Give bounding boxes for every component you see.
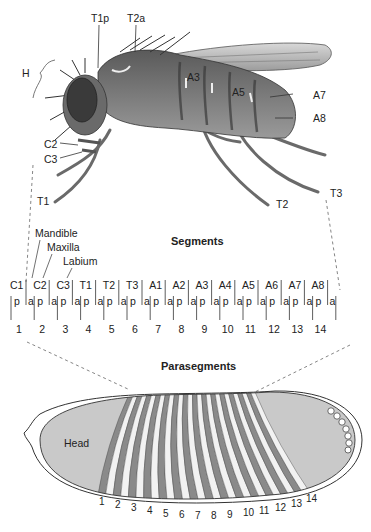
parasegment-stripe-number: 5: [163, 508, 169, 519]
parasegment-number: 6: [132, 323, 138, 335]
parasegment-stripe-number: 6: [179, 509, 185, 520]
compartment-anterior: a: [167, 295, 173, 307]
fly-eye: [67, 78, 97, 122]
label-T1: T1: [37, 195, 49, 207]
label-T2: T2: [276, 198, 288, 210]
parasegment-number: 2: [39, 323, 45, 335]
parasegment-stripe-number: 7: [195, 510, 201, 521]
segment-label: T1: [80, 279, 92, 291]
parasegment-number: 4: [86, 323, 92, 335]
compartment-anterior: a: [330, 295, 336, 307]
compartment-posterior: p: [176, 295, 182, 307]
parasegment-stripe-number: 10: [243, 507, 255, 518]
segments-title: Segments: [171, 235, 224, 247]
compartment-anterior: a: [214, 295, 220, 307]
segment-label: C2: [33, 279, 47, 291]
parasegment-number: 3: [62, 323, 68, 335]
projection-lines: [26, 165, 350, 392]
compartment-anterior: a: [98, 295, 104, 307]
segment-label: A8: [312, 279, 325, 291]
compartment-anterior: a: [190, 295, 196, 307]
head-label: Head: [64, 437, 89, 449]
parasegment-number: 8: [178, 323, 184, 335]
segment-label: A6: [265, 279, 278, 291]
parasegment-number: 7: [155, 323, 161, 335]
parasegment-stripe-number: 8: [211, 510, 217, 521]
compartment-anterior: a: [237, 295, 243, 307]
compartment-anterior: a: [121, 295, 127, 307]
parasegment-number: 12: [268, 323, 280, 335]
compartment-anterior: a: [260, 295, 266, 307]
parasegment-stripe-number: 14: [306, 493, 318, 504]
compartment-posterior: p: [153, 295, 159, 307]
parasegment-number: 13: [291, 323, 303, 335]
parasegment-stripe-number: 11: [259, 505, 270, 516]
compartment-posterior: p: [292, 295, 298, 307]
label-A5: A5: [232, 86, 245, 98]
compartment-anterior: a: [306, 295, 312, 307]
parasegment-stripe-number: 9: [227, 509, 233, 520]
compartment-posterior: p: [223, 295, 229, 307]
parasegment-number: 11: [245, 323, 256, 335]
parasegment-number: 10: [222, 323, 234, 335]
segment-label: T3: [126, 279, 138, 291]
parasegments-title: Parasegments: [161, 360, 236, 372]
mouthpart-labels: Mandible Maxilla Labium: [32, 227, 98, 278]
compartment-posterior: p: [246, 295, 252, 307]
compartment-posterior: p: [14, 295, 20, 307]
compartment-anterior: a: [51, 295, 57, 307]
label-maxilla: Maxilla: [47, 241, 80, 253]
compartment-posterior: p: [130, 295, 136, 307]
label-A7: A7: [313, 89, 326, 101]
compartment-posterior: p: [60, 295, 66, 307]
label-T1p: T1p: [91, 12, 109, 24]
fly-illustration: H T1p T2a A3 A5 A7 A8 C2 C3 T1 T2 T3: [22, 12, 342, 210]
label-A3: A3: [187, 71, 200, 83]
segments-parasegments-diagram: H T1p T2a A3 A5 A7 A8 C2 C3 T1 T2 T3 Man…: [0, 0, 371, 532]
label-labium: Labium: [63, 255, 98, 267]
compartment-anterior: a: [28, 295, 34, 307]
segment-row: C1pa1C2pa2C3pa3T1pa4T2pa5T3pa6A1pa7A2pa8…: [10, 279, 336, 335]
compartment-anterior: a: [283, 295, 289, 307]
parasegment-stripe-number: 3: [131, 502, 137, 513]
label-H: H: [22, 67, 30, 79]
segment-label: A4: [219, 279, 232, 291]
label-A8: A8: [313, 112, 326, 124]
label-T2a: T2a: [127, 12, 145, 24]
segment-label: C1: [10, 279, 24, 291]
parasegment-number: 14: [315, 323, 327, 335]
compartment-posterior: p: [269, 295, 275, 307]
parasegment-number: 9: [202, 323, 208, 335]
label-C2: C2: [44, 138, 58, 150]
segment-label: A5: [242, 279, 255, 291]
compartment-posterior: p: [84, 295, 90, 307]
parasegment-number: 5: [109, 323, 115, 335]
segment-label: A7: [288, 279, 301, 291]
parasegment-number: 1: [16, 323, 22, 335]
segment-label: A1: [149, 279, 162, 291]
label-T3: T3: [330, 187, 342, 199]
label-C3: C3: [44, 153, 58, 165]
label-mandible: Mandible: [35, 227, 78, 239]
parasegment-stripe-number: 4: [147, 505, 153, 516]
segment-label: A2: [172, 279, 185, 291]
parasegment-stripe-number: 1: [99, 496, 105, 507]
compartment-posterior: p: [316, 295, 322, 307]
compartment-posterior: p: [37, 295, 43, 307]
compartment-anterior: a: [74, 295, 80, 307]
segment-label: T2: [103, 279, 115, 291]
parasegment-stripe-number: 2: [115, 499, 121, 510]
parasegment-stripe-number: 13: [291, 498, 303, 509]
segment-label: C3: [56, 279, 70, 291]
compartment-posterior: p: [107, 295, 113, 307]
compartment-posterior: p: [200, 295, 206, 307]
compartment-anterior: a: [144, 295, 150, 307]
segment-label: A3: [196, 279, 209, 291]
head-bracket: [33, 60, 55, 98]
embryo: Head 1234567891011121314: [24, 380, 370, 521]
parasegment-stripe-number: 12: [275, 502, 287, 513]
